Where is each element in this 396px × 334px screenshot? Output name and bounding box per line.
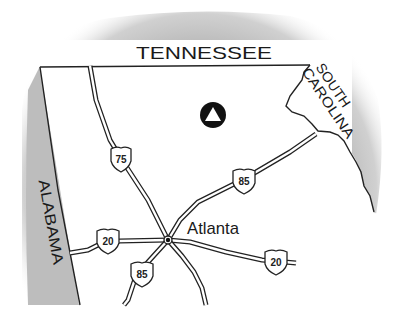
- shield-i20-w-label: 20: [102, 236, 114, 247]
- shield-i20-e-label: 20: [270, 257, 282, 268]
- shield-i85-sw-label: 85: [136, 269, 148, 280]
- map: 75 85 85 20 20 TENNESSEE SOUTH CAROLINA …: [0, 0, 396, 334]
- shield-i85-ne-label: 85: [238, 176, 250, 187]
- label-tennessee: TENNESSEE: [136, 44, 272, 63]
- shield-i75-label: 75: [115, 154, 127, 165]
- triangle-in-circle-icon: [200, 102, 226, 128]
- label-atlanta: Atlanta: [187, 219, 240, 238]
- atlanta-city-marker: [164, 236, 172, 244]
